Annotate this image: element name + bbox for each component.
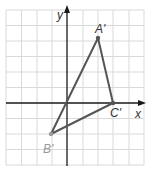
y-axis-arrow-icon xyxy=(64,5,70,13)
point-a-prime xyxy=(96,36,100,40)
label-c-prime: C' xyxy=(110,106,122,120)
label-b-prime: B' xyxy=(43,142,54,156)
label-a-prime: A' xyxy=(94,22,106,36)
x-axis-label: x xyxy=(134,107,142,121)
triangle xyxy=(49,36,115,136)
x-axis-arrow-icon xyxy=(138,100,146,106)
grid xyxy=(6,10,144,165)
coordinate-plane: y x A' B' C' xyxy=(0,0,153,176)
point-c-prime xyxy=(111,101,115,105)
axes xyxy=(6,5,146,166)
y-axis-label: y xyxy=(56,8,64,22)
point-b-prime xyxy=(49,132,53,136)
